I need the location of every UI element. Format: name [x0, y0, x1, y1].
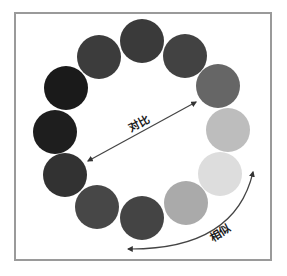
circle-right-lower [198, 152, 242, 196]
circle-right [206, 108, 250, 152]
circle-left-lower [43, 153, 87, 197]
circle-left-upper [44, 66, 88, 110]
circle-top-right [163, 34, 207, 78]
circle-left [33, 110, 77, 154]
contrast-arrow [88, 102, 196, 161]
circle-top-left [77, 35, 121, 79]
circle-right-upper [196, 64, 240, 108]
circle-top [120, 19, 164, 63]
circle-bottom-left [75, 185, 119, 229]
circle-bottom [120, 196, 164, 240]
circle-bottom-right [164, 181, 208, 225]
color-wheel-diagram: 对比 相似 [0, 0, 287, 276]
contrast-label: 对比 [126, 112, 152, 135]
similar-label: 相似 [207, 221, 233, 245]
